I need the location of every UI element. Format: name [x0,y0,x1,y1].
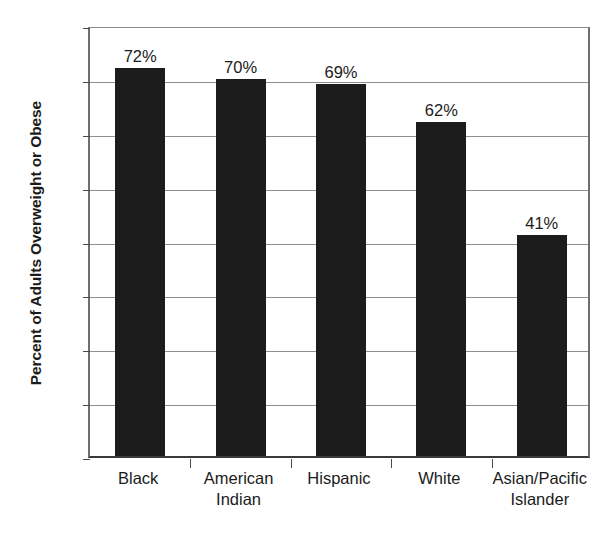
x-tick-mark [492,459,493,468]
bar [115,68,165,456]
x-tick-mark [190,459,191,468]
y-tick-mark [83,190,90,191]
y-tick-mark [83,405,90,406]
bar-value-label: 69% [324,63,357,82]
bar-chart-figure: Percent of Adults Overweight or Obese 80… [0,0,608,547]
y-axis-title: Percent of Adults Overweight or Obese [27,23,45,463]
x-axis-label: Asian/Pacific Islander [490,468,590,510]
y-tick-mark [83,136,90,137]
bar [316,84,366,456]
bar-slot: 72% [90,28,190,456]
bar-value-label: 62% [425,101,458,120]
bar [517,235,567,456]
bar-series: 72%70%69%62%41% [90,28,588,456]
bar-slot: 69% [291,28,391,456]
bar-value-label: 70% [224,58,257,77]
y-tick-mark [83,351,90,352]
x-tick-mark [391,459,392,468]
bar [416,122,466,456]
y-tick-mark [83,82,90,83]
y-tick-mark [83,459,90,460]
bar [216,79,266,456]
bar-value-label: 72% [124,47,157,66]
x-axis-label: Black [88,468,188,489]
bar-value-label: 41% [525,214,558,233]
bar-slot: 41% [492,28,592,456]
y-tick-mark [83,28,90,29]
x-axis-label: White [389,468,489,489]
bar-slot: 62% [391,28,491,456]
plot-area: 80706050403020100 72%70%69%62%41% [88,27,590,458]
y-tick-mark [83,297,90,298]
x-axis-label: Hispanic [289,468,389,489]
x-tick-mark [291,459,292,468]
x-axis-label: American Indian [188,468,288,510]
bar-slot: 70% [190,28,290,456]
y-tick-mark [83,244,90,245]
